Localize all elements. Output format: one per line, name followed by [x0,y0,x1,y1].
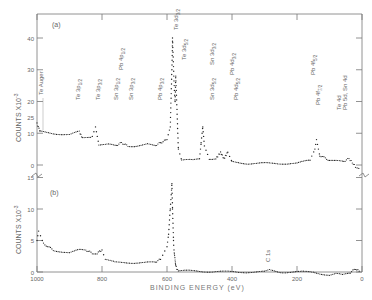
svg-text:40: 40 [27,36,34,42]
svg-text:800: 800 [97,276,108,282]
svg-text:0: 0 [31,270,35,276]
svg-text:Pb 4d3/2: Pb 4d3/2 [229,53,237,75]
svg-text:Pb 5d, Sn 4d: Pb 5d, Sn 4d [342,75,348,110]
svg-text:30: 30 [27,67,34,73]
svg-text:Pb 4d5/2: Pb 4d5/2 [233,78,241,100]
svg-text:Te 3p1/2: Te 3p1/2 [75,79,83,100]
series-panel-b [36,183,360,276]
svg-text:600: 600 [162,276,173,282]
panel-a-label: (a) [52,21,61,29]
svg-text:Sn 3d3/2: Sn 3d3/2 [209,43,217,65]
svg-text:20: 20 [27,99,34,105]
svg-text:0: 0 [360,276,364,282]
svg-text:Te 3p3/2: Te 3p3/2 [95,79,103,100]
svg-text:5: 5 [31,238,35,244]
svg-text:10: 10 [27,207,34,213]
svg-text:Te Auger: Te Auger [38,71,44,95]
svg-text:Pb 4p1/2: Pb 4p1/2 [118,48,126,70]
peak-annotations: Te AugerTe 3p1/2Te 3p3/2Pb 4p1/2Sn 3p1/2… [38,9,348,130]
svg-text:25: 25 [27,115,34,121]
series-panel-a [36,37,359,169]
svg-text:COUNTS X10-3: COUNTS X10-3 [13,93,22,142]
y-axis-label-b: COUNTS X10-3 [13,205,22,254]
panel-b-label: (b) [50,189,59,197]
c1s-label: C 1s [265,250,271,262]
svg-text:Pb 4f7/2: Pb 4f7/2 [315,84,323,105]
xps-spectrum-chart: 0102030400510152510008006004002000 Te Au… [0,0,372,300]
svg-text:15: 15 [27,175,34,181]
svg-text:1000: 1000 [30,276,44,282]
svg-text:Sn 3p1/2: Sn 3p1/2 [113,78,121,100]
svg-text:Pb 4p3/2: Pb 4p3/2 [157,78,165,100]
svg-text:COUNTS X10-3: COUNTS X10-3 [13,205,22,254]
svg-text:Te 3d3/2: Te 3d3/2 [173,9,181,30]
svg-text:400: 400 [227,276,238,282]
svg-text:0: 0 [31,163,35,169]
y-axis-label: COUNTS X10-3 [13,93,22,142]
svg-text:Pb 4f5/2: Pb 4f5/2 [310,54,318,75]
svg-text:Te 3d5/2: Te 3d5/2 [181,39,189,60]
x-axis-label: BINDING ENERGY (eV) [150,284,245,291]
axis-ticks: 0102030400510152510008006004002000 [27,14,364,282]
svg-text:Sn 3d5/2: Sn 3d5/2 [209,78,217,100]
svg-text:200: 200 [292,276,303,282]
svg-text:Sn 3p3/2: Sn 3p3/2 [128,78,136,100]
svg-text:10: 10 [27,131,34,137]
